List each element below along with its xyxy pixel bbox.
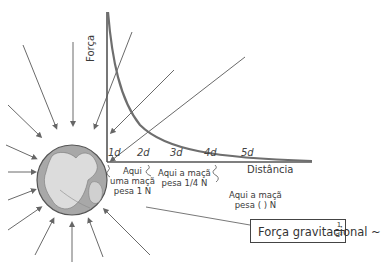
y-axis-label: Força bbox=[86, 35, 96, 62]
tick-1d: 1d bbox=[108, 147, 121, 158]
tick-4d: 4d bbox=[204, 147, 217, 158]
annotation-1d: Aqui uma maçã pesa 1 N bbox=[110, 166, 155, 196]
annotation-4d: Aqui a maçã pesa ( ) N bbox=[229, 190, 282, 210]
earth bbox=[37, 145, 107, 215]
annotation-2d: Aqui a maçã pesa 1/4 N bbox=[158, 168, 211, 188]
formula-text: Força gravitacional ~ bbox=[258, 225, 381, 239]
x-axis-label: Distância bbox=[247, 165, 293, 175]
force-curve bbox=[108, 12, 312, 161]
formula-fraction: 1 d² bbox=[334, 221, 344, 240]
tick-3d: 3d bbox=[170, 147, 183, 158]
tick-5d: 5d bbox=[241, 147, 254, 158]
tick-2d: 2d bbox=[137, 147, 150, 158]
formula-box: Força gravitacional ~ 1 d² bbox=[250, 219, 346, 243]
